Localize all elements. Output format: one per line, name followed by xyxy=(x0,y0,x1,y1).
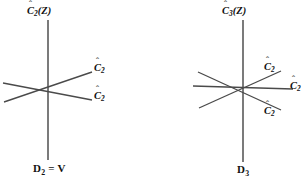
left-point-group-label-suffix: = V xyxy=(45,162,65,174)
right-principal-axis-label-sub: 3 xyxy=(229,9,233,18)
left-secondary-axis-label-2: ˆC2 xyxy=(94,91,105,102)
left-point-group-label: D2 = V xyxy=(33,163,66,174)
circumflex-accent-icon: ˆ xyxy=(96,57,99,66)
left-principal-axis-label-sub: 2 xyxy=(34,9,38,18)
left-secondary-axis-label-1-sub: 2 xyxy=(101,66,105,75)
circumflex-accent-icon: ˆ xyxy=(96,85,99,94)
circumflex-accent-icon: ˆ xyxy=(292,75,295,84)
left-principal-axis-label: ˆC2(Z) xyxy=(27,6,51,17)
circumflex-accent-icon: ˆ xyxy=(29,0,32,9)
right-point-group-label-sub: 3 xyxy=(245,169,249,178)
right-point-group-label-base: D xyxy=(237,163,245,175)
right-secondary-axis-label-2: ˆC2 xyxy=(290,81,301,92)
right-secondary-axis-label-3: ˆC2 xyxy=(264,106,275,117)
left-principal-axis-label-suffix: (Z) xyxy=(38,5,51,16)
left-diagram-lines xyxy=(3,20,92,160)
right-secondary-axis-label-3-sub: 2 xyxy=(271,109,275,118)
circumflex-accent-icon: ˆ xyxy=(266,100,269,109)
left-secondary-axis-label-2-sub: 2 xyxy=(101,94,105,103)
right-principal-axis-label: ˆC3(Z) xyxy=(222,6,246,17)
right-secondary-axis-label-2-sub: 2 xyxy=(297,84,301,93)
right-secondary-axis-label-1-sub: 2 xyxy=(271,65,275,74)
circumflex-accent-icon: ˆ xyxy=(266,56,269,65)
circumflex-accent-icon: ˆ xyxy=(224,0,227,9)
right-point-group-label: D3 xyxy=(237,164,249,175)
right-diagram-lines xyxy=(193,20,293,162)
left-point-group-label-base: D xyxy=(33,162,41,174)
axes-line-art xyxy=(0,0,307,181)
right-secondary-axis-label-1: ˆC2 xyxy=(264,62,275,73)
left-point-group-label-sub: 2 xyxy=(41,168,45,177)
symmetry-axes-figure: ˆC2(Z) ˆC2 ˆC2 D2 = V ˆC3(Z) ˆC2 ˆC2 ˆC2… xyxy=(0,0,307,181)
right-principal-axis-label-suffix: (Z) xyxy=(233,5,246,16)
left-secondary-axis-label-1: ˆC2 xyxy=(94,63,105,74)
